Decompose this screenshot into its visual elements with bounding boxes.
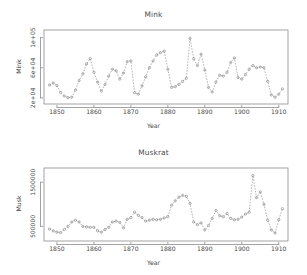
x-tick-label: 1890: [197, 108, 213, 115]
y-tick-label: 500000: [29, 215, 36, 238]
x-tick-label: 1910: [271, 108, 287, 115]
data-point: [174, 85, 176, 87]
data-point: [226, 212, 228, 214]
data-point: [156, 54, 158, 56]
data-point: [281, 208, 283, 210]
x-tick-label: 1850: [49, 245, 65, 252]
data-point: [130, 216, 132, 218]
data-point: [281, 88, 283, 90]
data-point: [226, 71, 228, 73]
x-tick-label: 1850: [49, 108, 65, 115]
data-point: [215, 81, 217, 83]
data-point: [137, 93, 139, 95]
y-tick-label: 6e+04: [29, 57, 36, 78]
y-tick-label: 1500000: [29, 168, 36, 195]
panel-muskrat: Muskrat Year Musk 1850186018701880189019…: [0, 138, 307, 275]
data-point: [178, 196, 180, 198]
data-point: [108, 75, 110, 77]
data-point: [119, 78, 121, 80]
data-point: [207, 224, 209, 226]
data-point: [63, 228, 65, 230]
data-point: [204, 229, 206, 231]
series-points: [48, 37, 283, 99]
x-tick-label: 1910: [271, 245, 287, 252]
data-point: [200, 222, 202, 224]
panel-mink-plot: 18501860187018801890190019102e+046e+041e…: [0, 0, 307, 138]
x-tick-label: 1900: [234, 108, 250, 115]
x-tick-label: 1860: [86, 245, 102, 252]
x-tick-label: 1900: [234, 245, 250, 252]
panel-muskrat-plot: 1850186018701880189019001910500000150000…: [0, 138, 307, 275]
x-tick-label: 1860: [86, 108, 102, 115]
data-point: [252, 64, 254, 66]
data-point: [59, 91, 61, 93]
x-tick-label: 1880: [160, 108, 176, 115]
x-tick-label: 1890: [197, 245, 213, 252]
data-point: [104, 228, 106, 230]
data-point: [248, 68, 250, 70]
series-line: [50, 176, 283, 234]
x-tick-label: 1870: [123, 108, 139, 115]
data-point: [241, 216, 243, 218]
data-point: [230, 217, 232, 219]
fur-trade-figure: Mink Year Mink 1850186018701880189019001…: [0, 0, 307, 275]
data-point: [193, 221, 195, 223]
data-point: [274, 96, 276, 98]
data-point: [259, 191, 261, 193]
series-points: [48, 174, 283, 234]
y-tick-label: 1e+05: [29, 27, 36, 48]
data-point: [48, 84, 50, 86]
data-point: [74, 219, 76, 221]
data-point: [137, 214, 139, 216]
data-point: [222, 216, 224, 218]
series-line: [50, 38, 283, 97]
panel-mink: Mink Year Mink 1850186018701880189019001…: [0, 0, 307, 138]
x-tick-label: 1880: [160, 245, 176, 252]
data-point: [48, 228, 50, 230]
data-point: [148, 67, 150, 69]
x-tick-label: 1870: [123, 245, 139, 252]
data-point: [185, 77, 187, 79]
y-tick-label: 2e+04: [29, 88, 36, 109]
data-point: [218, 215, 220, 217]
